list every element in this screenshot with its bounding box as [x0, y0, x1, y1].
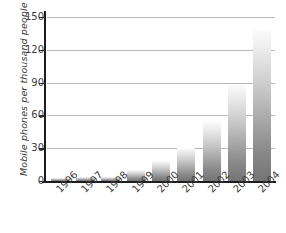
y-axis-tickmark — [39, 148, 45, 149]
bar — [203, 122, 221, 181]
y-axis-tickmark — [39, 50, 45, 51]
y-axis-tickmark — [39, 181, 45, 182]
y-axis-tickmark — [39, 83, 45, 84]
bar — [253, 30, 271, 181]
bar-chart: Mobile phones per thousand people 030609… — [0, 0, 286, 233]
bars-group — [47, 17, 275, 181]
x-axis-tick-labels: 199619971998199920002001200220032004 — [47, 181, 281, 233]
y-axis-tickmark — [39, 17, 45, 18]
bar — [228, 85, 246, 181]
y-axis-tickmark — [39, 115, 45, 116]
plot-area — [47, 17, 275, 181]
